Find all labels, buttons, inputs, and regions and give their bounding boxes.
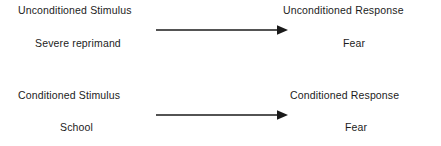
unconditioned-response-example: Fear: [343, 37, 365, 50]
conditioned-response-example: Fear: [345, 121, 367, 134]
classical-conditioning-diagram: Unconditioned Stimulus Severe reprimand …: [0, 0, 441, 146]
unconditioned-response-heading: Unconditioned Response: [283, 4, 404, 17]
conditioned-response-heading: Conditioned Response: [290, 89, 399, 102]
right-arrow-icon-unconditioned: [155, 23, 291, 37]
unconditioned-stimulus-heading: Unconditioned Stimulus: [18, 4, 132, 17]
conditioned-stimulus-example: School: [60, 121, 93, 134]
conditioned-stimulus-heading: Conditioned Stimulus: [18, 89, 120, 102]
unconditioned-stimulus-example: Severe reprimand: [35, 37, 121, 50]
right-arrow-icon-conditioned: [155, 108, 291, 122]
